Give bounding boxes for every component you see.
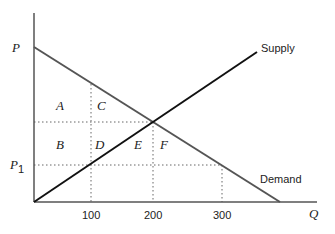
supply-curve [34, 52, 257, 202]
region-e-label: E [133, 137, 142, 152]
demand-curve [34, 47, 280, 202]
tick-100: 100 [82, 209, 100, 221]
tick-200: 200 [144, 209, 162, 221]
region-b-label: B [56, 137, 64, 152]
region-c-label: C [97, 98, 106, 113]
region-a-label: A [55, 98, 64, 113]
supply-label: Supply [261, 42, 295, 54]
quantity-q-label: Q [309, 206, 319, 221]
price-p1-label: P1 [9, 157, 24, 175]
region-d-label: D [94, 137, 105, 152]
supply-demand-chart: P P1 Q 100 200 300 Supply Demand A C B D… [0, 0, 335, 234]
region-f-label: F [159, 137, 169, 152]
price-p-label: P [11, 40, 20, 55]
tick-300: 300 [213, 209, 231, 221]
demand-label: Demand [260, 173, 302, 185]
